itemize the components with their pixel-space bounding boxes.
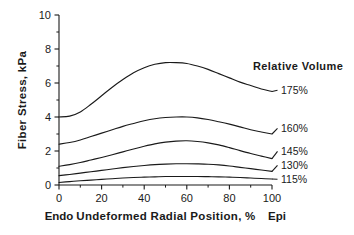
x-tick-label: 60 [181,192,193,204]
data-series-lines [59,62,272,182]
y-tick-label: 6 [45,77,51,89]
y-tick-label: 2 [45,145,51,157]
series-line-175pct [59,62,272,117]
y-axis-title: Fiber Stress, kPa [16,50,28,149]
x-axis-ticks [59,185,272,190]
y-tick-label: 10 [39,9,51,21]
y-tick-label: 8 [45,43,51,55]
leader-line-130pct [272,165,278,171]
series-line-130pct [59,164,272,176]
x-axis-end-annotation-epi: Epi [268,210,286,222]
x-axis-tick-labels: 020406080100 [56,192,281,204]
legend-title: Relative Volume [253,60,343,72]
x-tick-label: 0 [56,192,62,204]
x-axis-start-annotation-endo: Endo [45,210,74,222]
series-value-labels: 175%160%145%130%115% [281,84,308,185]
series-label-175pct: 175% [281,84,308,96]
x-tick-label: 80 [223,192,235,204]
series-leader-lines [272,90,278,179]
y-axis-ticks [55,15,60,185]
y-axis-tick-labels: 0246810 [39,9,51,191]
series-label-130pct: 130% [281,159,308,171]
fiber-stress-line-chart: 0246810 020406080100 175%160%145%130%115… [0,0,354,235]
leader-line-145pct [272,151,278,158]
x-tick-label: 20 [95,192,107,204]
series-line-145pct [59,141,272,167]
leader-line-175pct [272,90,278,91]
series-label-145pct: 145% [281,145,308,157]
leader-line-160pct [272,128,278,134]
series-line-160pct [59,117,272,144]
series-label-160pct: 160% [281,122,308,134]
series-line-115pct [59,176,272,182]
x-tick-label: 100 [263,192,281,204]
x-tick-label: 40 [138,192,150,204]
y-tick-label: 0 [45,179,51,191]
chart-figure: 0246810 020406080100 175%160%145%130%115… [0,0,354,235]
x-axis-title: Undeformed Radial Position, % [76,210,255,222]
y-tick-label: 4 [45,111,51,123]
series-label-115pct: 115% [281,173,307,185]
